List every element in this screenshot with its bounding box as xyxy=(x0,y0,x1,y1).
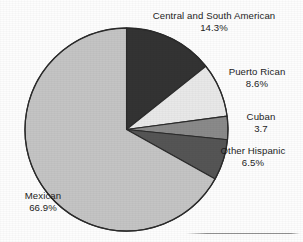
slice-label-other-hispanic: Other Hispanic 6.5% xyxy=(206,145,300,168)
slice-label-name: Cuban xyxy=(222,111,300,123)
slice-label-name: Puerto Rican xyxy=(214,66,300,78)
slice-label-value: 6.5% xyxy=(206,157,300,169)
pie-chart-figure: Central and South American 14.3% Puerto … xyxy=(0,0,303,242)
slice-label-puerto-rican: Puerto Rican 8.6% xyxy=(214,66,300,89)
slice-label-name: Mexican xyxy=(4,190,82,202)
slice-label-value: 8.6% xyxy=(214,78,300,90)
slice-label-central-and-south-american: Central and South American 14.3% xyxy=(128,10,300,33)
slice-label-mexican: Mexican 66.9% xyxy=(4,190,82,213)
slice-label-name: Central and South American xyxy=(128,10,300,22)
slice-label-value: 66.9% xyxy=(4,202,82,214)
slice-label-cuban: Cuban 3.7 xyxy=(222,111,300,134)
footer-divider xyxy=(186,233,300,234)
slice-label-name: Other Hispanic xyxy=(206,145,300,157)
slice-label-value: 14.3% xyxy=(128,22,300,34)
slice-label-value: 3.7 xyxy=(222,123,300,135)
